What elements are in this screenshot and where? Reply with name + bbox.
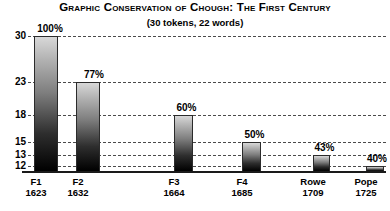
bar-value-label: 43% <box>309 143 340 153</box>
x-axis-tick-name: F2 <box>58 176 98 187</box>
x-axis-tick-name: Pope <box>345 176 387 187</box>
x-axis-tick-year: 1725 <box>345 187 387 198</box>
bar-value-label: 100% <box>31 24 69 34</box>
bar-rowe <box>313 155 330 172</box>
x-axis-tick-f2: F21632 <box>58 176 98 198</box>
bar-value-label: 50% <box>238 130 271 140</box>
bar-value-label: 77% <box>75 70 113 80</box>
y-axis-tick-label: 23 <box>0 77 26 87</box>
plot-area: 100%77%60%50%43%40% <box>28 36 386 172</box>
x-axis-line <box>22 171 386 173</box>
x-axis-tick-year: 1632 <box>58 187 98 198</box>
x-axis-tick-rowe: Rowe1709 <box>291 176 335 198</box>
x-axis-tick-year: 1623 <box>16 187 56 198</box>
x-axis-tick-f1: F11623 <box>16 176 56 198</box>
y-axis-tick-label: 30 <box>0 31 26 41</box>
bar-f1 <box>34 36 58 172</box>
y-axis: 302318151312 <box>0 36 26 172</box>
x-axis-tick-year: 1664 <box>154 187 194 198</box>
x-axis-tick-f3: F31664 <box>154 176 194 198</box>
y-axis-tick-label: 18 <box>0 110 26 120</box>
x-axis-tick-name: F3 <box>154 176 194 187</box>
x-axis-tick-pope: Pope1725 <box>345 176 387 198</box>
y-axis-tick-label: 13 <box>0 150 26 160</box>
gridline <box>28 36 386 37</box>
y-axis-tick-label: 15 <box>0 137 26 147</box>
x-axis-tick-year: 1709 <box>291 187 335 198</box>
chart-container: Graphic Conservation of Chough: The Firs… <box>0 0 390 211</box>
x-axis-tick-year: 1685 <box>222 187 262 198</box>
bar-f3 <box>174 115 193 172</box>
x-axis-tick-name: F1 <box>16 176 56 187</box>
x-axis-tick-f4: F41685 <box>222 176 262 198</box>
chart-title: Graphic Conservation of Chough: The Firs… <box>0 1 390 13</box>
x-axis-tick-name: F4 <box>222 176 262 187</box>
bar-value-label: 40% <box>361 154 390 164</box>
bar-value-label: 60% <box>170 103 203 113</box>
bar-f2 <box>76 82 100 172</box>
x-axis-tick-name: Rowe <box>291 176 335 187</box>
bar-f4 <box>242 142 261 172</box>
y-axis-tick-label: 12 <box>0 161 26 171</box>
